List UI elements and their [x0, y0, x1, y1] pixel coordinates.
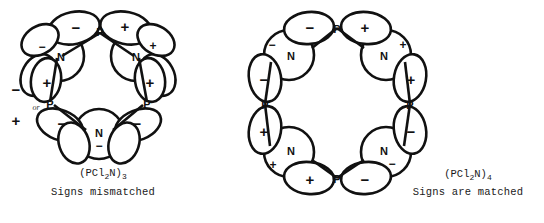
tetramer-sign-bottom-plus: + [306, 171, 315, 188]
tetramer-atom-n-top-left: N [287, 50, 295, 62]
tetramer-atom-p-top: P [333, 23, 340, 35]
trimer-formula: (PCl2N)3 [79, 167, 127, 181]
tetramer-atom-n-bottom-left: N [287, 145, 295, 157]
trimer-sign-top-minus: − [72, 19, 81, 36]
tetramer-caption: Signs are matched [413, 186, 524, 198]
tetramer-sign-bottom-minus: − [361, 171, 370, 188]
tetramer-atom-p-bottom: P [333, 173, 340, 185]
trimer-structure: P P P N N N − + − + + − + − − − + or (PC… [12, 7, 183, 198]
tetramer-sign-right-plus: + [407, 71, 416, 88]
trimer-or-annotation: or [32, 103, 40, 112]
trimer-atom-p-top: P [96, 26, 103, 38]
trimer-atom-n-upper-left: N [57, 51, 65, 63]
tetramer-atom-n-bottom-right: N [380, 145, 388, 157]
trimer-atom-p-lower-left: P [46, 98, 53, 110]
tetramer-sign-top-plus: + [361, 19, 370, 36]
trimer-sign-n-bottom: − [95, 139, 102, 153]
tetramer-sign-right-minus: − [407, 123, 416, 140]
tetramer-sign-left-minus: − [260, 71, 269, 88]
trimer-sign-top-plus: + [121, 18, 130, 35]
trimer-extra-sign-plus: + [12, 112, 21, 129]
tetramer-formula-mid: N) [474, 168, 487, 180]
trimer-formula-sub2: 3 [122, 172, 127, 181]
chemistry-figure: P P P N N N − + − + + − + − − − + or (PC… [0, 0, 544, 223]
tetramer-atom-p-left: P [261, 99, 268, 111]
tetramer-sign-n-top-left: − [268, 38, 275, 52]
tetramer-sign-top-minus: − [306, 19, 315, 36]
trimer-formula-base: (PCl [79, 167, 104, 179]
tetramer-sign-n-top-right: + [399, 38, 406, 52]
tetramer-sign-left-plus: + [260, 123, 269, 140]
trimer-caption: Signs mismatched [51, 186, 155, 198]
trimer-extra-sign-minus: − [12, 81, 21, 98]
trimer-sign-lower-left-minus: − [58, 115, 67, 132]
trimer-sign-lower-right-plus: + [146, 74, 155, 91]
tetramer-structure: P P P P N N N N − + + − + − − + − + − + … [245, 9, 523, 198]
trimer-atom-n-upper-right: N [132, 51, 140, 63]
trimer-sign-n-upper-right: + [149, 39, 156, 53]
trimer-atom-p-lower-right: P [143, 98, 150, 110]
trimer-sign-lower-right-minus: − [133, 115, 142, 132]
tetramer-sign-n-bottom-right: − [388, 157, 395, 171]
tetramer-sign-n-bottom-left: + [269, 158, 276, 172]
tetramer-atom-p-right: P [406, 99, 413, 111]
tetramer-formula-base: (PCl [444, 168, 469, 180]
tetramer-formula-sub2: 4 [487, 173, 492, 182]
trimer-formula-mid: N) [109, 167, 122, 179]
tetramer-atom-n-top-right: N [380, 50, 388, 62]
trimer-sign-n-upper-left: − [38, 40, 45, 54]
trimer-atom-n-bottom: N [95, 127, 103, 139]
trimer-sign-lower-left-plus: + [43, 74, 52, 91]
tetramer-formula: (PCl2N)4 [444, 168, 492, 182]
